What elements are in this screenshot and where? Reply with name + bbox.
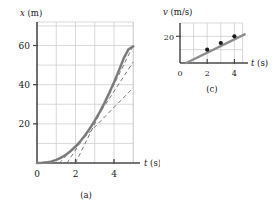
- panel-c: 20 024 v (m/s) t (s) (c): [155, 0, 277, 140]
- x-tick-label: 0: [177, 69, 182, 78]
- chart-c-y-tick-labels: 20: [164, 33, 174, 42]
- panel-a: 204060 024 x (m) t (s) (a): [0, 0, 160, 212]
- chart-c-y-axis-label: v (m/s): [163, 7, 192, 17]
- data-point: [219, 41, 223, 45]
- fit-line: [186, 34, 244, 63]
- y-tick-label: 60: [19, 41, 31, 51]
- y-tick-label: 20: [19, 119, 31, 129]
- chart-c-caption: (c): [206, 84, 217, 94]
- x-tick-label: 2: [205, 69, 210, 78]
- chart-a-caption: (a): [80, 190, 92, 200]
- chart-c-gridlines: [180, 23, 243, 63]
- x-tick-label: 2: [73, 169, 79, 179]
- y-tick-label: 20: [164, 33, 174, 42]
- chart-a-x-axis-label: t (s): [144, 158, 160, 168]
- x-tick-label: 4: [111, 169, 117, 179]
- physics-figure: 204060 024 x (m) t (s) (a): [0, 0, 277, 212]
- chart-c-x-axis-label: t (s): [251, 58, 268, 68]
- x-tick-label: 0: [34, 169, 40, 179]
- chart-c-fit-line: [186, 34, 244, 63]
- chart-a-y-axis-label: x (m): [20, 8, 42, 18]
- position-curve-core: [37, 46, 133, 163]
- chart-a-position-curve: [37, 46, 133, 163]
- chart-a-x-tick-labels: 024: [34, 169, 117, 179]
- chart-a-gridlines: [37, 22, 133, 163]
- position-curve: [37, 46, 133, 163]
- chart-a-y-tick-labels: 204060: [19, 41, 31, 129]
- y-tick-label: 40: [19, 80, 31, 90]
- data-point: [205, 48, 209, 52]
- data-point: [232, 34, 236, 38]
- chart-c-svg: 20 024 v (m/s) t (s) (c): [155, 0, 277, 140]
- x-tick-label: 4: [232, 69, 237, 78]
- chart-a-svg: 204060 024 x (m) t (s) (a): [0, 0, 160, 212]
- chart-c-x-tick-labels: 024: [177, 69, 236, 78]
